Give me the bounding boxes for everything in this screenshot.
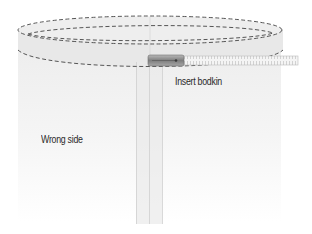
- bodkin-icon: [148, 55, 184, 66]
- elastic-tape: [183, 56, 298, 65]
- wrong-side-label: Wrong side: [41, 134, 83, 145]
- diagram-canvas: [0, 0, 312, 234]
- insert-bodkin-label: Insert bodkin: [175, 76, 222, 87]
- sewing-diagram: Insert bodkin Wrong side: [0, 0, 312, 234]
